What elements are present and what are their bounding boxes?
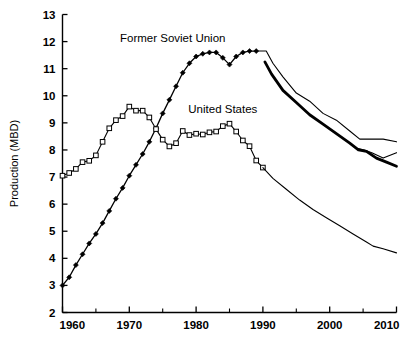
data-point-marker [187,133,192,138]
data-point-marker [247,49,252,54]
data-point-marker [167,97,172,102]
data-point-marker [180,129,185,134]
y-tick-label: 8 [49,144,56,156]
data-point-marker [94,153,99,158]
y-axis-title: Production (MBD) [8,120,20,207]
data-point-marker [60,173,65,178]
y-tick-label: 5 [49,225,56,237]
data-point-marker [227,121,232,126]
x-tick-label: 1980 [183,319,209,331]
y-tick-label: 3 [49,279,55,291]
data-point-marker [147,115,152,120]
production-line-chart: 2345678910111213196019701980199020002010… [0,0,418,341]
y-tick-label: 4 [49,252,56,264]
data-point-marker [200,132,205,137]
y-tick-label: 6 [49,198,55,210]
y-tick-label: 12 [43,36,56,48]
data-point-marker [254,158,259,163]
data-point-marker [147,139,152,144]
data-point-marker [174,84,179,89]
x-tick-label: 2010 [374,319,400,331]
data-point-marker [107,208,112,213]
data-point-marker [154,127,159,132]
x-tick-label: 1960 [60,319,86,331]
data-point-marker [120,114,125,119]
data-point-marker [67,171,72,176]
data-point-marker [140,108,145,113]
x-tick-label: 2000 [317,319,343,331]
x-tick-label: 1990 [250,319,276,331]
data-point-marker [100,140,105,145]
series-line [265,62,397,166]
data-point-marker [107,126,112,131]
series-line [358,149,396,158]
y-tick-label: 2 [49,307,55,319]
x-tick-label: 1970 [117,319,143,331]
series-line [263,168,397,253]
series-line [63,51,257,285]
data-point-marker [114,118,119,123]
y-tick-label: 13 [43,9,56,21]
former-soviet-union-label: Former Soviet Union [120,32,225,44]
data-point-marker [174,141,179,146]
data-point-marker [167,144,172,149]
data-point-marker [160,137,165,142]
y-tick-label: 9 [49,117,55,129]
data-point-marker [247,144,252,149]
data-point-marker [160,111,165,116]
data-point-marker [80,160,85,165]
chart-figure: 2345678910111213196019701980199020002010… [0,0,418,341]
data-point-marker [214,129,219,134]
data-point-marker [74,167,79,172]
data-point-marker [207,50,212,55]
data-point-marker [207,130,212,135]
data-point-marker [127,104,132,109]
data-point-marker [134,108,139,113]
y-tick-label: 11 [43,63,56,75]
data-point-marker [234,129,239,134]
data-point-marker [221,124,226,129]
united-states-label: United States [188,103,257,115]
y-tick-label: 10 [43,90,56,102]
data-point-marker [87,158,92,163]
y-tick-label: 7 [49,171,55,183]
data-point-marker [194,131,199,136]
data-point-marker [241,138,246,143]
data-point-marker [200,51,205,56]
